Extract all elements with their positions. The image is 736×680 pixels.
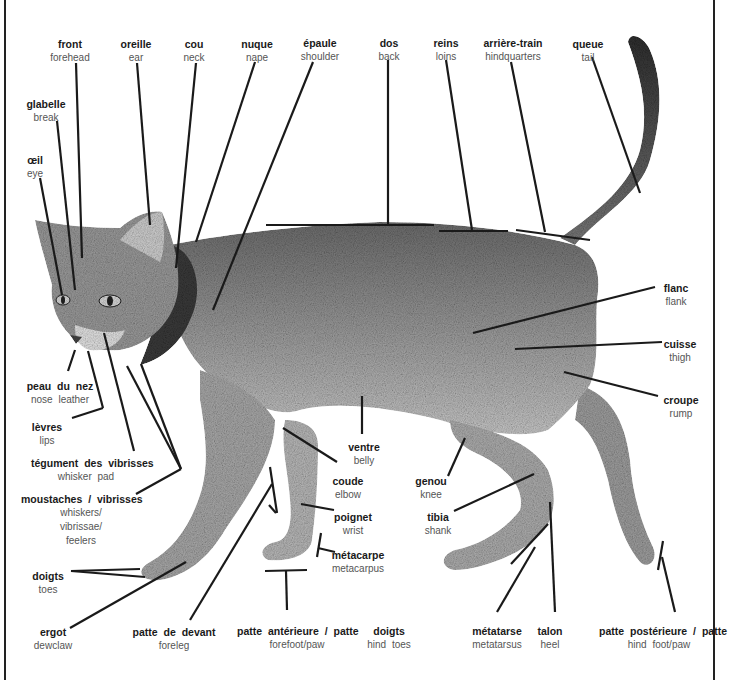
label-moustaches-vibrisses: moustaches / vibrisses whiskers/ vibriss… xyxy=(21,492,141,548)
label-glabelle-fr: glabelle xyxy=(24,97,68,111)
label-cou-en: neck xyxy=(174,51,214,65)
label-tibia-fr: tibia xyxy=(420,510,456,524)
label-patte-anterieure-fr: patte antérieure / patte xyxy=(237,624,357,638)
label-patte-anterieure-en: forefoot/paw xyxy=(237,638,357,652)
label-coude: coude elbow xyxy=(330,474,366,502)
label-epaule-en: shoulder xyxy=(295,50,345,64)
label-reins: reins loins xyxy=(426,36,466,64)
label-nuque-en: nape xyxy=(237,51,277,65)
label-ventre-en: belly xyxy=(344,454,384,468)
label-oreille-fr: oreille xyxy=(116,37,156,51)
label-coude-fr: coude xyxy=(330,474,366,488)
label-doigts-avant-en: toes xyxy=(30,583,66,597)
label-glabelle: glabelle break xyxy=(24,97,68,125)
label-patte-de-devant: patte de devant foreleg xyxy=(129,625,219,653)
label-queue-fr: queue xyxy=(568,37,608,51)
label-patte-de-devant-fr: patte de devant xyxy=(129,625,219,639)
label-oeil-fr: œil xyxy=(20,153,50,167)
label-peau-du-nez: peau du nez nose leather xyxy=(25,379,95,407)
label-genou-fr: genou xyxy=(413,474,449,488)
label-metatarse-fr: métatarse xyxy=(467,624,527,638)
label-oeil: œil eye xyxy=(20,153,50,181)
label-ventre: ventre belly xyxy=(344,440,384,468)
label-tegument-des-vibrisses-fr: tégument des vibrisses xyxy=(31,456,141,470)
label-nuque-fr: nuque xyxy=(237,37,277,51)
label-oreille: oreille ear xyxy=(116,37,156,65)
label-moustaches-vibrisses-en: whiskers/ vibrissae/ feelers xyxy=(21,506,141,548)
label-metacarpe: métacarpe metacarpus xyxy=(328,548,388,576)
label-levres-en: lips xyxy=(27,434,67,448)
label-reins-fr: reins xyxy=(426,36,466,50)
label-cou: cou neck xyxy=(174,37,214,65)
label-tegument-des-vibrisses-en: whisker pad xyxy=(31,470,141,484)
label-metatarse-en: metatarsus xyxy=(467,638,527,652)
label-tegument-des-vibrisses: tégument des vibrisses whisker pad xyxy=(31,456,141,484)
label-genou-en: knee xyxy=(413,488,449,502)
label-queue-en: tail xyxy=(568,51,608,65)
label-croupe-fr: croupe xyxy=(661,393,701,407)
label-tibia: tibia shank xyxy=(420,510,456,538)
hind-leg-near xyxy=(444,420,554,570)
label-patte-posterieure: patte postérieure / patte hind foot/paw xyxy=(599,624,719,652)
label-poignet: poignet wrist xyxy=(333,510,373,538)
label-poignet-en: wrist xyxy=(333,524,373,538)
label-doigts-avant-fr: doigts xyxy=(30,569,66,583)
label-dos-fr: dos xyxy=(369,36,409,50)
label-flanc-en: flank xyxy=(661,295,691,309)
label-epaule-fr: épaule xyxy=(295,36,345,50)
label-patte-posterieure-fr: patte postérieure / patte xyxy=(599,624,719,638)
label-oeil-en: eye xyxy=(20,167,50,181)
label-talon-fr: talon xyxy=(535,624,565,638)
foreleg-near xyxy=(141,370,275,580)
label-arriere-train-en: hindquarters xyxy=(478,50,548,64)
label-poignet-fr: poignet xyxy=(333,510,373,524)
tail-shape xyxy=(560,36,659,245)
label-patte-posterieure-en: hind foot/paw xyxy=(599,638,719,652)
label-talon-en: heel xyxy=(535,638,565,652)
label-reins-en: loins xyxy=(426,50,466,64)
label-patte-de-devant-en: foreleg xyxy=(129,639,219,653)
label-arriere-train: arrière-train hindquarters xyxy=(478,36,548,64)
label-talon: talon heel xyxy=(535,624,565,652)
label-cou-fr: cou xyxy=(174,37,214,51)
label-oreille-en: ear xyxy=(116,51,156,65)
label-flanc: flanc flank xyxy=(661,281,691,309)
label-ergot-fr: ergot xyxy=(33,625,73,639)
label-epaule: épaule shoulder xyxy=(295,36,345,64)
label-croupe-en: rump xyxy=(661,407,701,421)
hind-leg-far xyxy=(575,385,655,565)
label-doigts-arriere-en: hind toes xyxy=(364,638,414,652)
label-ergot-en: dewclaw xyxy=(33,639,73,653)
label-doigts-arriere-fr: doigts xyxy=(364,624,414,638)
label-croupe: croupe rump xyxy=(661,393,701,421)
label-peau-du-nez-fr: peau du nez xyxy=(25,379,95,393)
label-patte-anterieure: patte antérieure / patte forefoot/paw xyxy=(237,624,357,652)
label-levres-fr: lèvres xyxy=(27,420,67,434)
label-genou: genou knee xyxy=(413,474,449,502)
label-glabelle-en: break xyxy=(24,111,68,125)
label-metatarse: métatarse metatarsus xyxy=(467,624,527,652)
label-nuque: nuque nape xyxy=(237,37,277,65)
label-ventre-fr: ventre xyxy=(344,440,384,454)
label-levres: lèvres lips xyxy=(27,420,67,448)
label-cuisse-fr: cuisse xyxy=(662,337,698,351)
label-moustaches-vibrisses-fr: moustaches / vibrisses xyxy=(21,492,141,506)
label-doigts-arriere: doigts hind toes xyxy=(364,624,414,652)
label-dos-en: back xyxy=(369,50,409,64)
label-dos: dos back xyxy=(369,36,409,64)
label-ergot: ergot dewclaw xyxy=(33,625,73,653)
label-tibia-en: shank xyxy=(420,524,456,538)
label-cuisse: cuisse thigh xyxy=(662,337,698,365)
label-queue: queue tail xyxy=(568,37,608,65)
label-front: front forehead xyxy=(50,37,90,65)
cat-illustration xyxy=(0,0,736,680)
label-arriere-train-fr: arrière-train xyxy=(478,36,548,50)
label-peau-du-nez-en: nose leather xyxy=(25,393,95,407)
label-front-en: forehead xyxy=(50,51,90,65)
label-metacarpe-en: metacarpus xyxy=(328,562,388,576)
label-flanc-fr: flanc xyxy=(661,281,691,295)
label-metacarpe-fr: métacarpe xyxy=(328,548,388,562)
label-coude-en: elbow xyxy=(330,488,366,502)
label-front-fr: front xyxy=(50,37,90,51)
label-doigts-avant: doigts toes xyxy=(30,569,66,597)
